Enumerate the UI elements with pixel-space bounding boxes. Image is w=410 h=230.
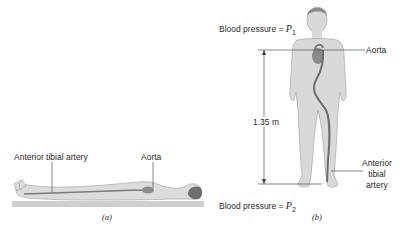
figure-illustration: [0, 0, 410, 230]
label-aorta-a: Aorta: [141, 152, 161, 162]
caption-b: (b): [312, 212, 322, 222]
label-anterior-tibial-artery-a: Anterior tibial artery: [14, 152, 88, 162]
table-surface: [12, 201, 204, 207]
caption-a: (a): [102, 212, 112, 222]
label-height: 1.35 m: [252, 117, 280, 127]
label-anterior-tibial-artery-b: Anteriortibialartery: [362, 158, 392, 191]
reclining-body: [12, 162, 204, 207]
label-blood-pressure-p1: Blood pressure = P1: [219, 23, 296, 36]
label-blood-pressure-p2: Blood pressure = P2: [219, 200, 296, 213]
label-aorta-b: Aorta: [366, 45, 386, 55]
